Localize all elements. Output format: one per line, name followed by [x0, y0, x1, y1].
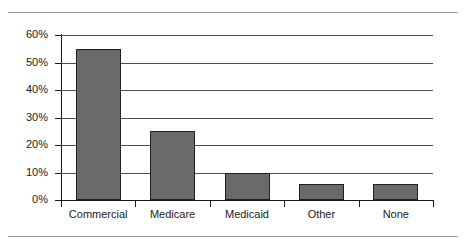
y-axis-label: 50%: [14, 57, 48, 68]
x-axis-tick: [210, 201, 211, 207]
bar-none: [373, 184, 418, 201]
bar-chart-figure: 0%10%20%30%40%50%60% CommercialMedicareM…: [0, 0, 469, 250]
x-axis-tick: [284, 201, 285, 207]
bar-medicare: [150, 131, 195, 200]
plot-area: [61, 35, 433, 200]
x-axis-tick: [135, 201, 136, 207]
y-axis-label: 10%: [14, 167, 48, 178]
x-axis-label-medicare: Medicare: [135, 209, 209, 220]
y-axis-label: 60%: [14, 29, 48, 40]
x-axis-label-other: Other: [284, 209, 358, 220]
document-rule-top: [8, 12, 458, 13]
bar-commercial: [76, 49, 121, 200]
y-axis-label: 30%: [14, 112, 48, 123]
bar-medicaid: [225, 173, 270, 201]
x-axis-tick: [61, 201, 62, 207]
bar-other: [299, 184, 344, 201]
x-axis-tick: [433, 201, 434, 207]
x-axis-label-commercial: Commercial: [61, 209, 135, 220]
y-axis-label: 20%: [14, 139, 48, 150]
x-axis-tick: [359, 201, 360, 207]
x-axis-line: [61, 200, 434, 201]
x-axis-label-medicaid: Medicaid: [210, 209, 284, 220]
y-axis-label: 40%: [14, 84, 48, 95]
x-axis-label-none: None: [359, 209, 433, 220]
y-axis-label: 0%: [14, 194, 48, 205]
document-rule-bottom: [8, 236, 458, 237]
